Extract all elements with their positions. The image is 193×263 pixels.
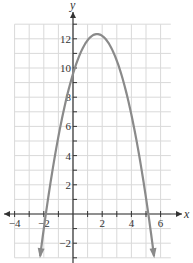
y-tick-label: 4 — [66, 150, 72, 162]
y-tick-label: 6 — [66, 120, 72, 132]
y-axis-label: y — [69, 0, 76, 12]
y-tick-label: 2 — [66, 179, 72, 191]
x-axis-arrow-right-icon — [176, 211, 182, 217]
x-axis-label: x — [183, 207, 190, 221]
parabola-chart: −4−2246−224681012 x y — [0, 0, 193, 263]
y-tick-label: 12 — [60, 33, 71, 45]
y-tick-label: 10 — [60, 62, 72, 74]
x-tick-label: −4 — [9, 217, 21, 229]
y-tick-label: −2 — [59, 237, 71, 249]
axes — [4, 12, 182, 263]
x-tick-label: 6 — [158, 217, 164, 229]
x-tick-label: 4 — [129, 217, 135, 229]
y-axis-arrow-up-icon — [70, 12, 76, 18]
parabola-curve — [40, 34, 154, 256]
x-tick-label: 2 — [99, 217, 105, 229]
curve-arrow-icon — [150, 248, 157, 258]
